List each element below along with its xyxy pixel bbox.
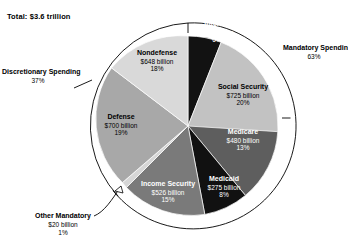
callout-other-mandatory-value: $20 billion <box>21 221 105 229</box>
discretionary-spending-leader-line <box>74 80 92 88</box>
callout-mandatory-spending-percent: 63% <box>283 53 345 61</box>
pie-slices <box>96 36 278 216</box>
callout-other-mandatory-name: Other Mandatory <box>21 212 105 221</box>
chart-canvas: Total: $3.6 trillion <box>0 0 348 252</box>
callout-mandatory-spending-name: Mandatory Spending <box>283 44 345 53</box>
callout-mandatory-spending: Mandatory Spending 63% <box>283 44 345 61</box>
callout-discretionary-spending-percent: 37% <box>2 77 74 85</box>
callout-discretionary-spending-name: Discretionary Spending <box>2 68 74 77</box>
other-mandatory-arrow <box>115 186 123 193</box>
callout-other-mandatory-percent: 1% <box>21 229 105 237</box>
callout-other-mandatory: Other Mandatory $20 billion 1% <box>21 212 105 237</box>
callout-discretionary-spending: Discretionary Spending 37% <box>2 68 74 85</box>
